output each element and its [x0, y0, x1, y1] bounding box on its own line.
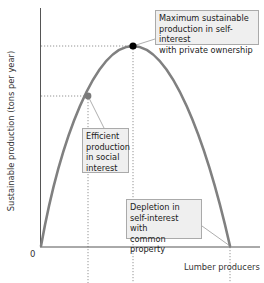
efficient-point: [85, 93, 92, 100]
efficient-leader: [88, 96, 104, 128]
callout-efficient-production: Efficient production in social interest: [82, 128, 129, 173]
y-axis-label-text: Sustainable production (tons per year): [6, 50, 16, 210]
origin-label: 0: [30, 249, 35, 259]
callout-depletion: Depletion in self-interest with common p…: [126, 199, 202, 239]
y-axis-label: Sustainable production (tons per year): [4, 18, 18, 243]
x-axis-label: Lumber producers: [184, 262, 260, 272]
maximum-point: [129, 42, 136, 49]
callout-maximum-production: Maximum sustainable production in self-i…: [155, 10, 259, 45]
